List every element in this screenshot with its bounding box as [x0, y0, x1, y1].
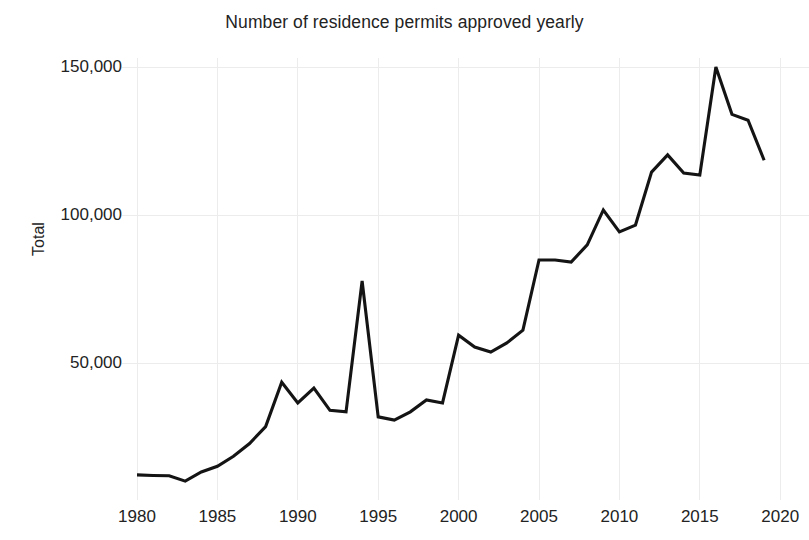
plot-area [0, 0, 809, 540]
data-series-total [137, 67, 764, 481]
vertical-gridlines [137, 58, 780, 500]
horizontal-gridlines [122, 67, 809, 363]
chart-container: Number of residence permits approved yea… [0, 0, 809, 540]
